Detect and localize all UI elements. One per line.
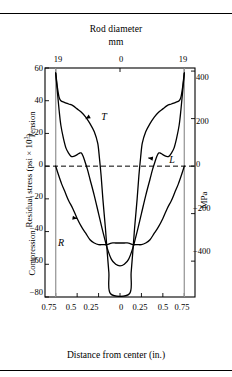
curves-layer xyxy=(56,73,185,296)
chart-plot-area xyxy=(0,0,232,377)
reference-lines-layer xyxy=(45,68,195,297)
annotation-arrows-layer xyxy=(72,115,153,220)
figure-container: Rod diameter mm Distance from center (in… xyxy=(0,0,232,377)
axes-layer xyxy=(45,68,195,297)
